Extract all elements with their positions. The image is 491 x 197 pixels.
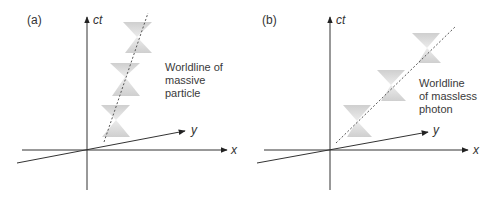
annotation-line: massive [165, 74, 205, 86]
annotation-line: particle [165, 87, 200, 99]
y-axis-label: y [190, 123, 198, 137]
light-cone [412, 33, 441, 63]
y-axis [17, 131, 185, 163]
light-cone [377, 70, 406, 101]
light-cone [343, 105, 372, 137]
light-cone [101, 105, 130, 137]
x-axis-label: x [230, 143, 238, 157]
x-axis-label: x [472, 143, 480, 157]
annotation-line: Worldline of [165, 61, 224, 73]
spacetime-diagram: (a) ct x y Worldline of massive particle… [0, 0, 491, 197]
panel-b: (b) ct x y Worldline of massless photon [257, 13, 480, 190]
ct-axis-label: ct [93, 13, 103, 27]
annotation-line: Worldline [419, 77, 465, 89]
panel-b-label: (b) [262, 13, 277, 27]
ct-axis-label: ct [336, 13, 346, 27]
panel-a-label: (a) [27, 13, 42, 27]
panel-a: (a) ct x y Worldline of massive particle [17, 13, 238, 190]
light-cone [123, 22, 152, 53]
y-axis-label: y [432, 123, 440, 137]
annotation-line: photon [419, 103, 453, 115]
annotation-line: of massless [419, 90, 478, 102]
